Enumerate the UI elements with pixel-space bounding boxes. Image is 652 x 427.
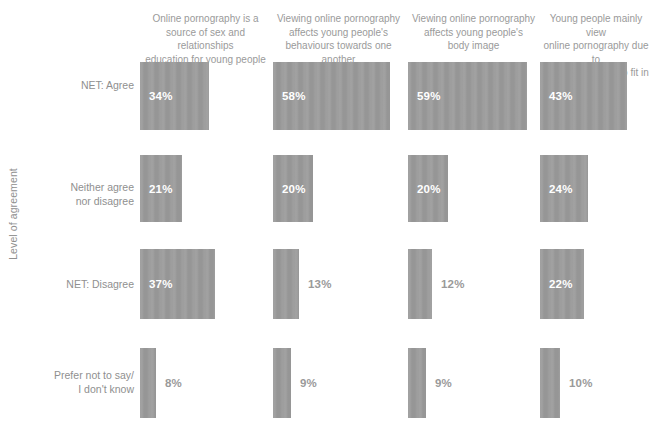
bar-value-label-outside: 13% [308,278,332,290]
row-label-4: Prefer not to say/I don't know [26,368,134,396]
bar-value-label-outside: 9% [435,377,452,389]
bar[interactable] [273,348,291,418]
bar[interactable] [408,249,432,319]
bar[interactable]: 59% [408,62,527,130]
column-header-line: affects young people's [408,26,539,40]
column-header-1: Online pornography is asource of sex and… [140,12,271,66]
bar-value-label-inside: 58% [282,90,306,102]
bar[interactable]: 20% [273,155,313,222]
column-header-line: Viewing online pornography [408,12,539,26]
bar-value-label-outside: 10% [569,377,593,389]
bar-group-c1-r4[interactable]: 8% [140,348,182,418]
bar-group-c3-r4[interactable]: 9% [408,348,452,418]
bar-group-c4-r2[interactable]: 24% [540,155,588,222]
bar-value-label-inside: 20% [417,183,441,195]
column-header-line: source of sex and relationships [140,26,271,53]
row-label-1: NET: Agree [26,78,134,92]
column-header-line: Online pornography is a [140,12,271,26]
bar-value-label-inside: 21% [149,183,173,195]
chart-plot-area: Online pornography is asource of sex and… [0,0,652,427]
row-label-line: Prefer not to say/ [26,368,134,382]
bar[interactable]: 58% [273,62,390,130]
bar-value-label-inside: 37% [149,278,173,290]
row-label-line: NET: Agree [26,78,134,92]
bar-value-label-inside: 20% [282,183,306,195]
row-label-line: Neither agree [26,180,134,194]
bar[interactable]: 34% [140,62,209,130]
bar-group-c4-r1[interactable]: 43% [540,62,627,130]
bar-group-c1-r2[interactable]: 21% [140,155,182,222]
column-header-line: Viewing online pornography [273,12,404,26]
bar[interactable]: 24% [540,155,588,222]
bar-group-c3-r3[interactable]: 12% [408,249,465,319]
bar[interactable]: 22% [540,249,584,319]
row-label-line: NET: Disagree [26,277,134,291]
bar-group-c2-r3[interactable]: 13% [273,249,332,319]
column-header-3: Viewing online pornographyaffects young … [408,12,539,53]
bar-group-c2-r1[interactable]: 58% [273,62,390,130]
row-label-3: NET: Disagree [26,277,134,291]
bar[interactable]: 20% [408,155,448,222]
bar-value-label-inside: 34% [149,90,173,102]
column-header-line: affects young people's [273,26,404,40]
bar[interactable]: 37% [140,249,215,319]
bar[interactable]: 43% [540,62,627,130]
bar[interactable] [540,348,560,418]
bar[interactable] [408,348,426,418]
bar-group-c1-r1[interactable]: 34% [140,62,209,130]
bar-group-c2-r2[interactable]: 20% [273,155,313,222]
bar-group-c4-r3[interactable]: 22% [540,249,584,319]
column-header-line: body image [408,39,539,53]
column-header-line: Young people mainly view [540,12,652,39]
row-label-2: Neither agreenor disagree [26,180,134,208]
bar-group-c4-r4[interactable]: 10% [540,348,593,418]
bar-value-label-inside: 59% [417,90,441,102]
bar-group-c1-r3[interactable]: 37% [140,249,215,319]
bar[interactable] [273,249,299,319]
bar-value-label-inside: 24% [549,183,573,195]
bar-value-label-outside: 8% [165,377,182,389]
bar[interactable]: 21% [140,155,182,222]
column-header-2: Viewing online pornographyaffects young … [273,12,404,66]
bar[interactable] [140,348,156,418]
row-label-line: I don't know [26,382,134,396]
bar-value-label-outside: 12% [441,278,465,290]
bar-value-label-inside: 22% [549,278,573,290]
row-label-line: nor disagree [26,194,134,208]
bar-group-c2-r4[interactable]: 9% [273,348,317,418]
bar-group-c3-r2[interactable]: 20% [408,155,448,222]
bar-value-label-inside: 43% [549,90,573,102]
bar-group-c3-r1[interactable]: 59% [408,62,527,130]
bar-value-label-outside: 9% [300,377,317,389]
